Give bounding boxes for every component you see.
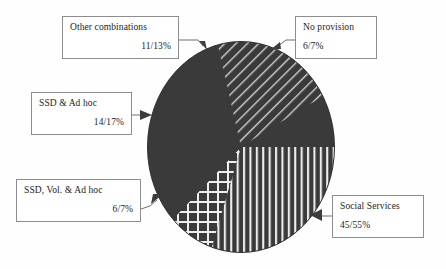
callout-other-combinations-label: Other combinations — [70, 22, 171, 34]
callout-ssd-ad-hoc-label: SSD & Ad hoc — [39, 98, 124, 110]
callout-social-services-label: Social Services — [340, 201, 416, 213]
pie-chart-figure: Other combinations 11/13% No provision 6… — [0, 0, 446, 269]
callout-ssd-ad-hoc[interactable]: SSD & Ad hoc 14/17% — [31, 92, 132, 135]
callout-ssd-vol-ad-hoc-label: SSD, Vol. & Ad hoc — [24, 185, 133, 197]
callout-no-provision-label: No provision — [303, 22, 369, 34]
callout-other-combinations[interactable]: Other combinations 11/13% — [62, 16, 179, 59]
callout-ssd-vol-ad-hoc-value: 6/7% — [24, 204, 133, 216]
callout-no-provision[interactable]: No provision 6/7% — [295, 16, 377, 59]
pie-chart-graphic — [147, 41, 335, 253]
callout-no-provision-value: 6/7% — [303, 41, 369, 53]
callout-ssd-vol-ad-hoc[interactable]: SSD, Vol. & Ad hoc 6/7% — [16, 179, 141, 222]
callout-social-services[interactable]: Social Services 45/55% — [332, 195, 424, 238]
callout-social-services-value: 45/55% — [340, 220, 416, 232]
callout-ssd-ad-hoc-value: 14/17% — [39, 117, 124, 129]
callout-other-combinations-value: 11/13% — [70, 41, 171, 53]
pie-svg — [147, 41, 335, 253]
